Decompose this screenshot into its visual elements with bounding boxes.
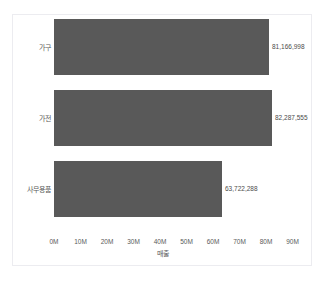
x-tick-1: 10M: [74, 237, 87, 247]
bar-1[interactable]: [54, 90, 272, 146]
bar-2[interactable]: [54, 161, 222, 217]
chart-title: [0, 0, 324, 2]
value-label-2: 63,722,288: [225, 185, 258, 193]
x-tick-7: 70M: [233, 237, 246, 247]
x-tick-5: 50M: [180, 237, 193, 247]
bar-row: 가구 81,166,998: [13, 19, 313, 75]
x-tick-2: 20M: [101, 237, 114, 247]
bar-0[interactable]: [54, 19, 269, 75]
x-axis-title: 매출: [13, 249, 313, 259]
x-axis-ticks: 0M 10M 20M 30M 40M 50M 60M 70M 80M 90M: [54, 237, 304, 247]
category-label-0: 가구: [13, 43, 51, 52]
category-label-2: 사무용품: [13, 185, 51, 194]
x-tick-3: 30M: [127, 237, 140, 247]
value-label-1: 82,287,555: [275, 114, 308, 122]
bar-row: 가전 82,287,555: [13, 90, 313, 146]
chart-plot-frame: 가구 81,166,998 가전 82,287,555 사무용품 63,722,…: [12, 14, 312, 266]
x-tick-0: 0M: [49, 237, 58, 247]
value-label-0: 81,166,998: [272, 43, 305, 51]
category-label-1: 가전: [13, 114, 51, 123]
x-tick-4: 40M: [154, 237, 167, 247]
bar-row: 사무용품 63,722,288: [13, 161, 313, 217]
bar-rows-container: 가구 81,166,998 가전 82,287,555 사무용품 63,722,…: [13, 15, 313, 230]
x-tick-6: 60M: [207, 237, 220, 247]
x-tick-8: 80M: [260, 237, 273, 247]
x-tick-9: 90M: [286, 237, 299, 247]
